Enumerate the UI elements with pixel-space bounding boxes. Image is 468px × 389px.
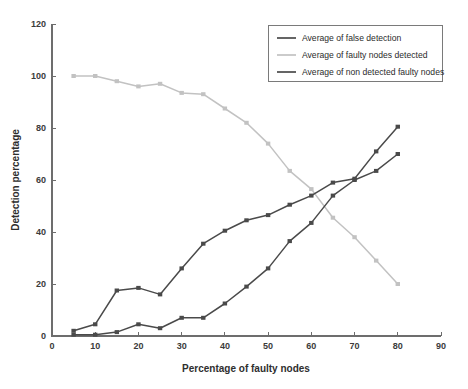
x-tick-label-50: 50 bbox=[263, 341, 273, 351]
data-point-marker bbox=[244, 121, 248, 125]
y-tick-label-40: 40 bbox=[36, 227, 46, 237]
data-point-marker bbox=[136, 286, 140, 290]
y-tick-label-100: 100 bbox=[31, 71, 46, 81]
data-point-marker bbox=[309, 194, 313, 198]
x-tick-label-20: 20 bbox=[133, 341, 143, 351]
data-point-marker bbox=[115, 289, 119, 293]
x-tick-label-90: 90 bbox=[436, 341, 446, 351]
data-point-marker bbox=[71, 329, 75, 333]
y-tick-label-120: 120 bbox=[31, 19, 46, 29]
data-point-marker bbox=[136, 322, 140, 326]
data-point-marker bbox=[288, 203, 292, 207]
x-tick-label-60: 60 bbox=[306, 341, 316, 351]
data-point-marker bbox=[223, 302, 227, 306]
data-point-marker bbox=[374, 169, 378, 173]
data-point-marker bbox=[331, 216, 335, 220]
line-chart: 0102030405060708090 020406080100120 Aver… bbox=[0, 0, 468, 389]
data-point-marker bbox=[223, 107, 227, 111]
x-axis-title: Percentage of faulty nodes bbox=[182, 363, 310, 374]
data-point-marker bbox=[266, 213, 270, 217]
legend-label-2: Average of non detected faulty nodes bbox=[302, 67, 444, 77]
y-axis-title: Detection percentage bbox=[10, 129, 21, 231]
data-point-marker bbox=[179, 91, 183, 95]
x-tick-label-30: 30 bbox=[177, 341, 187, 351]
data-point-marker bbox=[396, 125, 400, 129]
data-point-marker bbox=[266, 266, 270, 270]
data-point-marker bbox=[179, 266, 183, 270]
x-tick-label-10: 10 bbox=[90, 341, 100, 351]
data-point-marker bbox=[179, 316, 183, 320]
data-point-marker bbox=[136, 84, 140, 88]
data-point-marker bbox=[374, 149, 378, 153]
data-point-marker bbox=[352, 177, 356, 181]
data-point-marker bbox=[331, 181, 335, 185]
data-point-marker bbox=[158, 292, 162, 296]
data-point-marker bbox=[71, 74, 75, 78]
data-point-marker bbox=[288, 169, 292, 173]
data-point-marker bbox=[71, 333, 75, 337]
data-point-marker bbox=[93, 74, 97, 78]
data-point-marker bbox=[244, 285, 248, 289]
y-tick-label-20: 20 bbox=[36, 279, 46, 289]
data-point-marker bbox=[93, 322, 97, 326]
data-point-marker bbox=[396, 282, 400, 286]
data-point-marker bbox=[288, 239, 292, 243]
x-tick-label-70: 70 bbox=[350, 341, 360, 351]
legend-label-1: Average of faulty nodes detected bbox=[302, 50, 428, 60]
data-point-marker bbox=[201, 316, 205, 320]
x-tick-label-80: 80 bbox=[393, 341, 403, 351]
data-point-marker bbox=[223, 229, 227, 233]
y-tick-label-80: 80 bbox=[36, 123, 46, 133]
chart-legend: Average of false detectionAverage of fau… bbox=[268, 25, 444, 81]
y-tick-label-60: 60 bbox=[36, 175, 46, 185]
data-point-marker bbox=[158, 326, 162, 330]
data-point-marker bbox=[309, 187, 313, 191]
data-point-marker bbox=[331, 194, 335, 198]
data-point-marker bbox=[158, 82, 162, 86]
data-point-marker bbox=[93, 333, 97, 337]
data-point-marker bbox=[201, 92, 205, 96]
data-point-marker bbox=[352, 235, 356, 239]
data-point-marker bbox=[266, 142, 270, 146]
data-point-marker bbox=[201, 242, 205, 246]
legend-label-0: Average of false detection bbox=[302, 33, 401, 43]
data-point-marker bbox=[309, 221, 313, 225]
x-tick-label-40: 40 bbox=[220, 341, 230, 351]
data-point-marker bbox=[115, 330, 119, 334]
data-point-marker bbox=[374, 259, 378, 263]
data-point-marker bbox=[396, 152, 400, 156]
data-point-marker bbox=[244, 218, 248, 222]
data-point-marker bbox=[115, 79, 119, 83]
x-tick-label-0: 0 bbox=[49, 341, 54, 351]
chart-figure: 0102030405060708090 020406080100120 Aver… bbox=[0, 0, 468, 389]
y-tick-label-0: 0 bbox=[41, 331, 46, 341]
